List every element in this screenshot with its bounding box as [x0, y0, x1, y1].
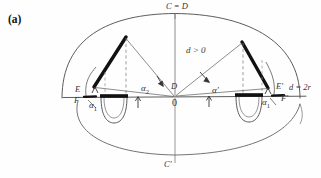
alpha-prime-arrow	[200, 72, 210, 83]
panel-label: (a)	[8, 14, 21, 26]
diagram-canvas	[0, 0, 321, 178]
label-right-lower-point: F'	[281, 94, 288, 103]
label-diameter: d = 2r	[289, 83, 311, 92]
label-left-lower-point: F	[74, 96, 79, 105]
right-element-body	[236, 96, 262, 122]
left-bold-chord	[94, 37, 126, 87]
dome-arc	[62, 14, 300, 99]
label-alpha-mid: α2	[141, 84, 149, 95]
baseline-tick-right	[206, 96, 211, 107]
right-element-inner-curve	[239, 97, 259, 117]
alpha-mid-subscript: 2	[146, 88, 149, 95]
right-alpha-stroke	[270, 98, 276, 105]
left-element-body	[101, 97, 127, 123]
alpha-right-subscript: 1	[267, 102, 270, 109]
label-apex: C = D	[166, 2, 188, 11]
label-right-upper-point: E'	[276, 82, 283, 91]
baseline-tick-left	[135, 97, 140, 108]
label-alpha-left: α1	[89, 101, 97, 112]
right-bold-chord	[242, 42, 268, 88]
alpha-left-subscript: 1	[94, 105, 97, 112]
left-small-arc	[86, 67, 96, 96]
label-left-upper-point: E	[75, 85, 80, 94]
left-ray-top-to-origin	[126, 39, 174, 97]
label-mid-point: D	[171, 82, 177, 91]
label-alpha-prime: α'	[212, 86, 219, 95]
label-origin: 0	[172, 98, 177, 108]
figure-container: (a) C = D d > 0 E F α1 α2 D 0 α' E' d = …	[0, 0, 321, 178]
bottom-arc-tail	[300, 104, 302, 124]
left-element-inner-curve	[104, 98, 124, 118]
label-condition: d > 0	[186, 46, 206, 55]
alpha2-arrow	[157, 76, 163, 87]
label-bottom-point: C'	[164, 160, 172, 169]
label-alpha-right: α1	[262, 98, 270, 109]
